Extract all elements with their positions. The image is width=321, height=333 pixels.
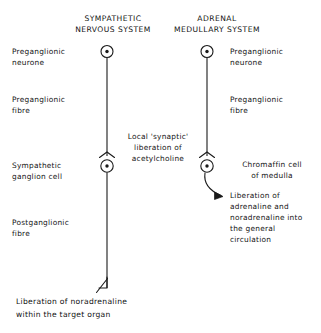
label-preganglionic-neurone-right: Preganglionic neurone: [230, 46, 316, 68]
column-title-sympathetic: SYMPATHETIC NERVOUS SYSTEM: [58, 14, 168, 35]
label-liberation-within-target-organ: Liberation of noradrenaline within the t…: [16, 296, 196, 321]
synapse-arrowhead-icon: [100, 152, 115, 158]
hormone-secretion-curved-arrow-head-icon: [215, 192, 224, 200]
label-preganglionic-fibre-left: Preganglionic fibre: [12, 94, 92, 116]
label-chromaffin-cell: Chromaffin cell of medulla: [228, 159, 316, 181]
nerve-terminal-arrow-shaft-icon: [97, 279, 108, 293]
nerve-terminal-arrow-head-icon: [99, 277, 107, 288]
adrenal-neurone-nucleus-icon: [205, 50, 208, 53]
neurone-cell-body-icon: [101, 46, 113, 58]
sympathetic-ganglion-nucleus-icon: [105, 164, 108, 167]
label-preganglionic-fibre-right: Preganglionic fibre: [230, 94, 316, 116]
diagram-canvas: SYMPATHETIC NERVOUS SYSTEM ADRENAL MEDUL…: [0, 0, 321, 333]
label-postganglionic-fibre: Postganglionic fibre: [12, 217, 96, 239]
adrenal-neurone-cell-body-icon: [201, 46, 213, 58]
hormone-secretion-curved-arrow-shaft-icon: [205, 173, 221, 196]
label-local-synaptic-liberation: Local 'synaptic' liberation of acetylcho…: [120, 131, 196, 164]
neurone-nucleus-icon: [105, 50, 108, 53]
column-title-adrenal: ADRENAL MEDULLARY SYSTEM: [158, 14, 276, 35]
label-liberation-of-adrenaline: Liberation of adrenaline and noradrenali…: [230, 190, 318, 245]
sympathetic-ganglion-cell-body-icon: [101, 160, 113, 172]
chromaffin-cell-body-icon: [201, 160, 213, 172]
adrenal-synapse-arrowhead-icon: [200, 152, 215, 158]
label-preganglionic-neurone-left: Preganglionic neurone: [12, 46, 92, 68]
chromaffin-cell-nucleus-icon: [205, 164, 208, 167]
label-sympathetic-ganglion-cell: Sympathetic ganglion cell: [12, 160, 96, 182]
